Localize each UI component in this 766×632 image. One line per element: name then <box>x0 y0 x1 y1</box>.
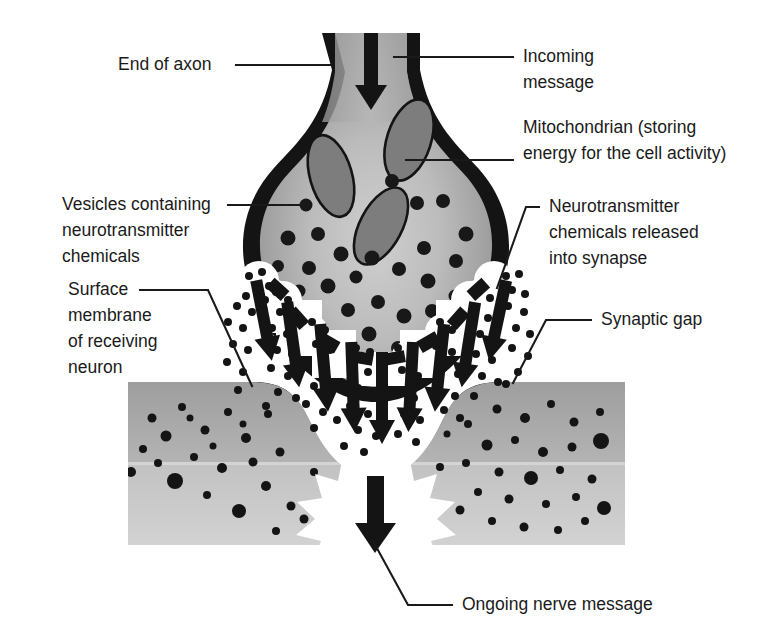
label-line: into synapse <box>549 248 647 268</box>
label-line: message <box>523 72 594 92</box>
label-line: Neurotransmitter <box>549 196 679 216</box>
label-text-end-of-axon: End of axon <box>118 54 211 74</box>
leader-line-synaptic-gap <box>513 320 591 383</box>
label-line: Vesicles containing <box>62 194 211 214</box>
label-synaptic-gap: Synaptic gap <box>513 309 702 383</box>
label-line: chemicals released <box>549 222 699 242</box>
synapse-diagram-figure: End of axonIncomingmessageMitochondrian … <box>0 0 766 632</box>
label-line: energy for the cell activity) <box>523 143 726 163</box>
label-text-ongoing-nerve-message: Ongoing nerve message <box>462 594 653 614</box>
label-text-incoming-message: Incomingmessage <box>523 46 594 92</box>
label-text-neurotransmitter-released: Neurotransmitterchemicals releasedinto s… <box>549 196 699 268</box>
label-line: Ongoing nerve message <box>462 594 653 614</box>
label-text-mitochondrian: Mitochondrian (storingenergy for the cel… <box>523 117 726 163</box>
label-line: of receiving <box>68 331 158 351</box>
label-end-of-axon: End of axon <box>118 54 330 74</box>
label-line: chemicals <box>62 246 140 266</box>
label-line: Synaptic gap <box>601 309 702 329</box>
label-line: Mitochondrian (storing <box>523 117 696 137</box>
label-line: Incoming <box>523 46 594 66</box>
label-text-synaptic-gap: Synaptic gap <box>601 309 702 329</box>
diagram-canvas: End of axonIncomingmessageMitochondrian … <box>0 0 766 632</box>
label-line: Surface <box>68 279 128 299</box>
label-text-vesicles: Vesicles containingneurotransmitterchemi… <box>62 194 211 266</box>
label-neurotransmitter-released: Neurotransmitterchemicals releasedinto s… <box>497 196 699 288</box>
label-line: membrane <box>68 305 152 325</box>
label-incoming-message: Incomingmessage <box>394 46 594 92</box>
label-line: End of axon <box>118 54 211 74</box>
label-line: neuron <box>68 357 123 377</box>
label-text-surface-membrane: Surfacemembraneof receivingneuron <box>68 279 158 377</box>
label-surface-membrane: Surfacemembraneof receivingneuron <box>68 279 252 386</box>
label-line: neurotransmitter <box>62 220 190 240</box>
